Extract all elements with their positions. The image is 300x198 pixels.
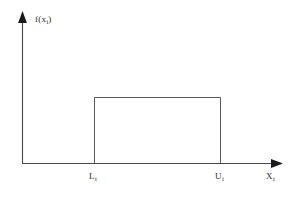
tick-label-lower-subscript: i <box>95 175 97 182</box>
x-axis-arrow-icon <box>271 159 283 168</box>
uniform-distribution-figure: f(xi) Li Ui Xi <box>0 0 300 198</box>
y-axis-label-close-paren: ) <box>48 14 51 24</box>
y-axis-label: f(xi) <box>35 15 51 24</box>
x-axis-label-subscript: i <box>273 175 275 182</box>
y-axis-label-text: f(x <box>35 14 46 24</box>
tick-label-upper-bound: Ui <box>215 172 224 181</box>
x-axis-label: Xi <box>266 172 275 181</box>
tick-label-upper-subscript: i <box>222 175 224 182</box>
tick-label-lower-text: L <box>89 171 95 181</box>
y-axis-arrow-icon <box>18 11 27 23</box>
uniform-density-rectangle <box>95 98 221 164</box>
plot-canvas <box>0 0 300 198</box>
x-axis-label-text: X <box>266 171 273 181</box>
tick-label-lower-bound: Li <box>89 172 97 181</box>
tick-label-upper-text: U <box>215 171 222 181</box>
